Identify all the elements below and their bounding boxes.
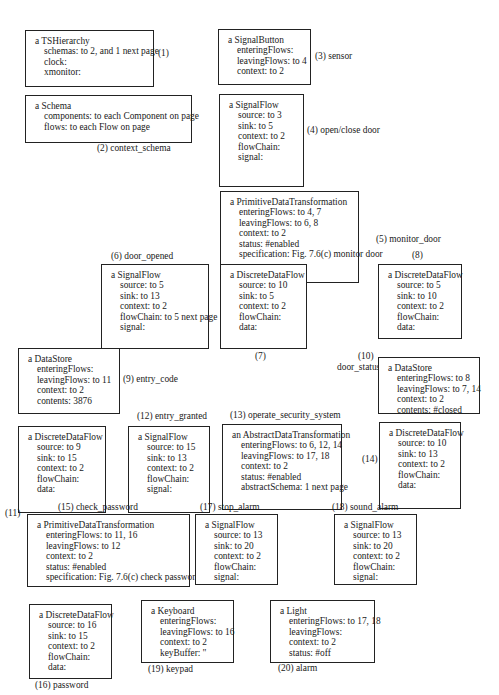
object-title: a Keyboard xyxy=(151,606,229,616)
object-attr: sink: to 10 xyxy=(388,291,457,301)
object-attr: signal: xyxy=(205,572,273,582)
object-label-10-name: door_status xyxy=(337,362,380,373)
object-attr: source: to 5 xyxy=(388,280,457,290)
object-label-17: (17) stop_alarm xyxy=(200,502,260,513)
object-box-tshierarchy: a TSHierarchy schemas: to 2, and 1 next … xyxy=(25,30,154,87)
object-attr: leavingFlows: to 12 xyxy=(37,541,185,551)
object-attr: enteringFlows: to 11, 16 xyxy=(37,530,185,540)
object-attr: flowChain: xyxy=(39,652,107,662)
object-attr: source: to 10 xyxy=(389,438,456,448)
object-label-15: (15) check_password xyxy=(58,502,138,513)
object-label-8: (8) xyxy=(412,250,423,261)
object-attr: flowChain: xyxy=(388,312,457,322)
object-title: a DataStore xyxy=(28,354,115,364)
object-attr: context: to 2 xyxy=(230,301,302,311)
object-attr: source: to 15 xyxy=(138,442,205,452)
object-attr: source: to 10 xyxy=(230,280,302,290)
object-attr: data: xyxy=(39,662,107,672)
object-label-9: (9) entry_code xyxy=(123,374,178,385)
object-attr: context: to 2 xyxy=(388,301,457,311)
object-box-keyboard-19: a Keyboard enteringFlows: leavingFlows: … xyxy=(141,600,234,663)
object-attr: flowChain: xyxy=(28,474,101,484)
object-label-2: (2) context_schema xyxy=(97,143,171,154)
object-attr: data: xyxy=(388,322,457,332)
object-attr: enteringFlows: to 17, 18 xyxy=(280,616,370,626)
object-attr: context: to 2 xyxy=(37,551,185,561)
object-attr: leavingFlows: to 7, 14 xyxy=(388,384,475,394)
object-attr: source: to 9 xyxy=(28,442,101,452)
object-label-10: (10) xyxy=(358,351,374,362)
object-label-20: (20) alarm xyxy=(278,663,317,674)
object-attr: context: to 2 xyxy=(388,394,475,404)
object-attr: context: to 2 xyxy=(228,66,306,76)
object-box-discretedataflow-7: a DiscreteDataFlow source: to 10 sink: t… xyxy=(220,264,307,349)
object-label-12: (12) entry_granted xyxy=(137,411,207,422)
object-box-signalbutton: a SignalButton enteringFlows: leavingFlo… xyxy=(218,29,311,85)
object-attr: status: #enabled xyxy=(232,472,337,482)
object-attr: schemas: to 2, and 1 next page xyxy=(35,46,149,56)
object-label-5: (5) monitor_door xyxy=(376,234,441,245)
object-title: a TSHierarchy xyxy=(35,36,149,46)
object-box-discretedataflow-14: a DiscreteDataFlow source: to 10 sink: t… xyxy=(379,422,461,509)
object-title: a Light xyxy=(280,606,370,616)
object-label-4: (4) open/close door xyxy=(307,125,380,136)
object-attr: enteringFlows: xyxy=(151,616,229,626)
object-title: an AbstractDataTransformation xyxy=(232,430,337,440)
object-label-14: (14) xyxy=(362,454,378,465)
object-attr: sink: to 15 xyxy=(39,631,107,641)
object-attr: flowChain: xyxy=(344,562,412,572)
object-label-7: (7) xyxy=(255,351,266,362)
object-attr: data: xyxy=(230,322,302,332)
object-attr: sink: to 13 xyxy=(111,291,204,301)
object-attr: context: to 2 xyxy=(39,641,107,651)
object-attr: sink: to 5 xyxy=(230,291,302,301)
object-attr: sink: to 20 xyxy=(344,541,412,551)
object-attr: data: xyxy=(28,484,101,494)
object-attr: enteringFlows: to 4, 7 xyxy=(230,207,354,217)
object-attr: abstractSchema: 1 next page xyxy=(232,482,337,492)
object-attr: context: to 2 xyxy=(389,459,456,469)
object-label-6: (6) door_opened xyxy=(111,251,173,262)
object-attr: status: #off xyxy=(280,648,370,658)
object-title: a PrimitiveDataTransformation xyxy=(230,197,354,207)
object-label-1: (1) xyxy=(158,48,169,59)
object-title: a SignalFlow xyxy=(229,100,299,110)
object-box-discretedataflow-8: a DiscreteDataFlow source: to 5 sink: to… xyxy=(378,264,462,339)
object-attr: sink: to 20 xyxy=(205,541,273,551)
object-attr: flowChain: to 5 next page xyxy=(111,312,204,322)
object-attr: leavingFlows: to 4 xyxy=(228,56,306,66)
object-attr: signal: xyxy=(111,322,204,332)
object-attr: leavingFlows: to 11 xyxy=(28,375,115,385)
object-label-11: (11) xyxy=(5,508,20,519)
object-attr: source: to 13 xyxy=(344,530,412,540)
object-label-3: (3) sensor xyxy=(315,51,352,62)
object-box-signalflow-6: a SignalFlow source: to 5 sink: to 13 co… xyxy=(101,264,209,349)
object-attr: status: #enabled xyxy=(230,239,354,249)
object-label-19: (19) keypad xyxy=(148,664,193,675)
object-title: a DiscreteDataFlow xyxy=(388,270,457,280)
object-attr: flowChain: xyxy=(389,470,456,480)
object-box-signalflow-12: a SignalFlow source: to 15 sink: to 13 c… xyxy=(128,426,210,513)
object-title: a DiscreteDataFlow xyxy=(28,432,101,442)
object-attr: signal: xyxy=(138,484,205,494)
object-attr: data: xyxy=(389,480,456,490)
object-attr: enteringFlows: to 6, 12, 14 xyxy=(232,440,337,450)
object-attr: context: to 2 xyxy=(151,637,229,647)
object-attr: source: to 3 xyxy=(229,110,299,120)
object-title: a SignalFlow xyxy=(111,270,204,280)
object-attr: context: to 2 xyxy=(28,463,101,473)
object-attr: context: to 2 xyxy=(230,228,354,238)
object-title: a PrimitiveDataTransformation xyxy=(37,520,185,530)
object-attr: source: to 13 xyxy=(205,530,273,540)
object-attr: context: to 2 xyxy=(205,551,273,561)
object-attr: enteringFlows: xyxy=(28,364,115,374)
object-attr: enteringFlows: xyxy=(228,45,306,55)
object-box-datastore-9: a DataStore enteringFlows: leavingFlows:… xyxy=(18,348,120,414)
object-title: a SignalFlow xyxy=(205,520,273,530)
object-title: a DiscreteDataFlow xyxy=(230,270,302,280)
object-title: a DataStore xyxy=(388,363,475,373)
object-attr: status: #enabled xyxy=(37,562,185,572)
object-attr: context: to 2 xyxy=(138,463,205,473)
object-attr: leavingFlows: to 17, 18 xyxy=(232,451,337,461)
object-title: a SignalButton xyxy=(228,35,306,45)
